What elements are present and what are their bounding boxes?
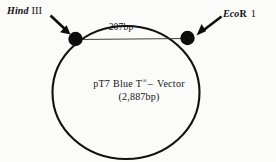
ecor1-enzyme-strain: R [239,8,246,19]
plasmid-name-dash: – [148,78,153,89]
ecor1-enzyme-genus: Eco [223,8,239,19]
plasmid-map-figure: HindIII EcoR1 207bp pT7 Blue T®– Vector … [0,0,276,162]
restriction-site-label-hind3: HindIII [7,6,42,17]
hind3-enzyme-name: Hind [7,5,29,16]
ecor1-enzyme-name: EcoR [223,8,247,19]
fragment-size-text: 207bp [109,22,134,32]
plasmid-name-suffix: Vector [157,78,185,89]
plasmid-name-prefix: pT7 [93,78,110,89]
restriction-site-marker-hind3 [68,32,82,46]
plasmid-name-label: pT7 Blue T®– Vector [0,78,276,89]
hind3-enzyme-numeral: III [32,5,43,16]
fragment-size-label: 207bp [0,23,276,33]
registered-trademark-icon: ® [142,78,147,84]
plasmid-name-text: pT7 Blue T®– Vector [93,78,185,89]
ecor1-enzyme-numeral: 1 [251,8,256,19]
plasmid-size-text: (2,887bp) [119,91,160,102]
plasmid-size-label: (2,887bp) [0,92,276,102]
restriction-site-marker-ecor1 [180,31,194,45]
plasmid-name-middle: Blue [113,78,133,89]
restriction-site-label-ecor1: EcoR1 [223,9,256,20]
